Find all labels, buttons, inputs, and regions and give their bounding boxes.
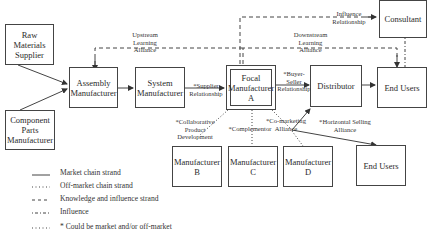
dotted-line-icon <box>32 183 52 189</box>
node-end-users-bottom: End Users <box>356 145 406 186</box>
focal-inner-box: Focal Manufacturer A <box>230 69 272 106</box>
dash-dot-line-icon <box>32 209 52 215</box>
legend-item-footnote: * Could be market and/or off-market <box>32 222 172 231</box>
node-focal-manufacturer: Focal Manufacturer A <box>226 65 276 110</box>
legend-label: * Could be market and/or off-market <box>60 222 172 231</box>
dashed-line-icon <box>32 196 52 202</box>
legend-label: Knowledge and influence strand <box>60 194 158 203</box>
component-to-assembly-edge <box>20 89 67 110</box>
label-downstream-learning-alliance: Downstream Learning Alliance <box>283 31 338 54</box>
node-system-manufacturer: System Manufacturer <box>135 67 185 108</box>
legend-item-market-chain: Market chain strand <box>32 168 121 177</box>
node-manufacturer-d: Manufacturer D <box>283 146 333 187</box>
solid-line-icon <box>32 170 52 176</box>
legend-label: Influence <box>60 207 89 216</box>
legend-label: Off-market chain strand <box>60 181 133 190</box>
label-collaborative-product-development: *Collaborative Product Development <box>170 118 220 141</box>
node-assembly-manufacturer: Assembly Manufacturer <box>69 67 118 108</box>
label-buyer-seller-relationship: *Buyer- Seller Relationship <box>276 70 312 93</box>
legend-item-influence: Influence <box>32 207 89 216</box>
legend-item-off-market: Off-market chain strand <box>32 181 133 190</box>
node-component-parts-manufacturer: Component Parts Manufacturer <box>5 110 55 150</box>
comarketing-dotted-edge <box>292 131 303 146</box>
label-upstream-learning-alliance: Upstream Learning Alliance <box>120 31 170 54</box>
label-co-marketing-alliance: *Co-marketing Alliance <box>261 117 311 132</box>
market-network-diagram: Raw Materials Supplier Component Parts M… <box>0 0 429 232</box>
node-manufacturer-b: Manufacturer B <box>172 146 222 187</box>
label-horizontal-selling-alliance: *Horizontal Selling Alliance <box>312 118 378 133</box>
node-manufacturer-c: Manufacturer C <box>228 146 278 187</box>
node-consultant: Consultant <box>379 0 427 38</box>
node-raw-materials-supplier: Raw Materials Supplier <box>5 24 54 65</box>
dotted-line-icon <box>32 224 52 230</box>
node-distributor: Distributor <box>310 65 362 107</box>
node-end-users-top: End Users <box>377 67 427 108</box>
label-influence-relationship: Influence Relationship <box>322 10 376 25</box>
legend-item-knowledge-influence: Knowledge and influence strand <box>32 194 158 203</box>
raw-to-assembly-edge <box>18 65 67 84</box>
label-supplier-relationship: *Supplier Relationship <box>186 82 226 97</box>
legend-label: Market chain strand <box>60 168 121 177</box>
